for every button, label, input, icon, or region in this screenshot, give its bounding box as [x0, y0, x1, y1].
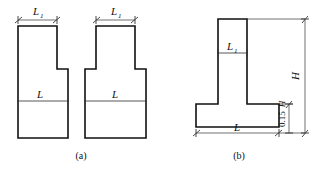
dimension-l-tee-base-label: L — [233, 121, 240, 133]
shape-stepped-asymmetric — [18, 26, 68, 138]
dimension-flange-height-value: 0.15 — [277, 111, 287, 127]
dimension-l1-tee: L 1 — [218, 40, 247, 57]
shape-tee-section — [196, 19, 279, 127]
dimension-l1-tee-subscript: 1 — [234, 47, 238, 55]
technical-drawing-figure: L 1 L L 1 L (a) — [0, 0, 326, 173]
caption-a: (a) — [75, 150, 86, 162]
dimension-l1-left-label: L — [32, 5, 39, 17]
dimension-l-tee-base: L — [193, 121, 282, 137]
label-l-left-shape: L — [36, 88, 43, 100]
dimension-l1-right-subscript: 1 — [118, 12, 122, 20]
dimension-l1-tee-label: L — [226, 40, 233, 52]
tee-section-outline — [196, 19, 279, 127]
figure-canvas: L 1 L L 1 L (a) — [0, 0, 326, 173]
stepped-symmetric-outline — [85, 26, 146, 138]
dimension-l1-left: L 1 — [15, 5, 60, 24]
dimension-l1-right: L 1 — [93, 5, 138, 24]
dimension-l1-right-label: L — [110, 5, 117, 17]
dimension-flange-height-symbol: H — [277, 100, 287, 108]
stepped-asymmetric-outline — [18, 26, 68, 138]
dimension-l1-left-subscript: 1 — [40, 12, 44, 20]
caption-b: (b) — [233, 150, 245, 162]
dimension-h-total-label: H — [289, 71, 301, 81]
shape-stepped-symmetric — [85, 26, 146, 138]
label-l-right-shape: L — [111, 88, 118, 100]
dimension-flange-height: 0.15 H — [277, 100, 293, 133]
